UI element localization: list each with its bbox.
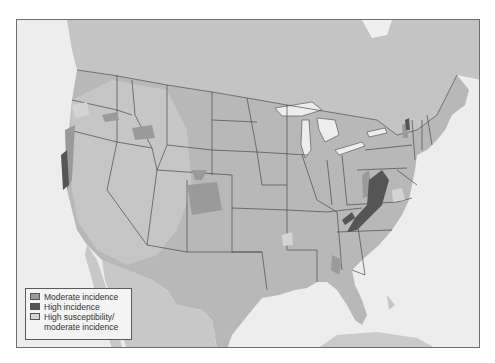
legend-label: High incidence xyxy=(44,302,100,312)
cuba xyxy=(317,332,437,348)
legend-label-continued: moderate incidence xyxy=(44,322,118,332)
bahamas xyxy=(387,295,395,310)
map-frame: Moderate incidence High incidence High s… xyxy=(16,19,480,348)
swatch-moderate-incidence xyxy=(30,293,40,300)
swatch-high-incidence xyxy=(30,303,40,310)
swatch-high-susceptibility xyxy=(30,313,40,320)
legend-label: High susceptibility/ xyxy=(44,312,118,322)
legend-item-high: High incidence xyxy=(30,302,127,312)
map-legend: Moderate incidence High incidence High s… xyxy=(25,288,132,340)
legend-item-high-susceptibility: High susceptibility/ moderate incidence xyxy=(30,312,127,332)
legend-item-moderate: Moderate incidence xyxy=(30,292,127,302)
legend-label: Moderate incidence xyxy=(44,292,118,302)
